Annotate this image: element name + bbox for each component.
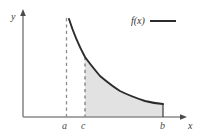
x-axis-arrow-icon: [180, 114, 187, 120]
x-axis-label: x: [188, 121, 192, 131]
y-axis-label: y: [11, 12, 15, 22]
y-axis-arrow-icon: [20, 9, 26, 16]
x-tick-label-c: c: [81, 121, 85, 131]
x-tick-label-b: b: [160, 121, 165, 131]
shaded-area-under-curve: [85, 57, 163, 117]
x-tick-label-a: a: [62, 121, 67, 131]
legend-line-swatch-icon: [150, 20, 176, 22]
legend-label-fx: f(x): [131, 16, 145, 26]
integral-area-figure: y x a c b f(x): [0, 0, 200, 136]
legend: f(x): [131, 16, 176, 26]
